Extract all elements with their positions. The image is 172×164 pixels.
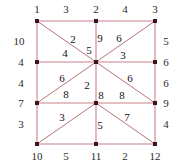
interior-label-9: 2 bbox=[84, 80, 90, 91]
interior-label-15: 7 bbox=[124, 112, 130, 123]
top-label-1: 1 bbox=[34, 4, 40, 15]
node-n5 bbox=[94, 60, 98, 64]
left-label-1: 10 bbox=[14, 36, 25, 47]
bottom-label-1: 10 bbox=[32, 151, 43, 162]
node-n6 bbox=[153, 60, 157, 64]
interior-label-10: 8 bbox=[63, 89, 69, 100]
interior-label-1: 2 bbox=[70, 34, 76, 45]
interior-label-4: 5 bbox=[86, 45, 92, 56]
right-label-1: 5 bbox=[163, 36, 169, 47]
node-n1 bbox=[35, 19, 39, 23]
interior-label-7: 6 bbox=[59, 73, 65, 84]
right-label-2: 6 bbox=[163, 57, 169, 68]
bottom-label-2: 5 bbox=[63, 151, 69, 162]
node-n7 bbox=[35, 101, 39, 105]
interior-label-3: 6 bbox=[116, 33, 122, 44]
interior-label-11: 8 bbox=[98, 90, 104, 101]
node-n3 bbox=[153, 19, 157, 23]
node-n10 bbox=[35, 142, 39, 146]
graph-diagram: 1 3 2 4 3 10 5 11 2 12 10 4 4 7 3 5 6 6 … bbox=[0, 0, 172, 164]
left-label-4: 7 bbox=[18, 98, 24, 109]
top-label-2: 3 bbox=[63, 4, 69, 15]
interior-label-14: 5 bbox=[97, 120, 103, 131]
node-n4 bbox=[35, 60, 39, 64]
left-label-2: 4 bbox=[18, 57, 24, 68]
interior-label-5: 4 bbox=[62, 48, 68, 59]
bottom-label-4: 2 bbox=[122, 151, 128, 162]
top-label-4: 4 bbox=[122, 4, 128, 15]
interior-label-8: 6 bbox=[127, 73, 133, 84]
left-label-3: 4 bbox=[18, 78, 24, 89]
bottom-label-5: 12 bbox=[150, 151, 161, 162]
node-n9 bbox=[153, 101, 157, 105]
bottom-label-3: 11 bbox=[91, 151, 102, 162]
node-n8 bbox=[94, 101, 98, 105]
top-label-3: 2 bbox=[93, 4, 99, 15]
edge-n8-n10-diagonal bbox=[37, 103, 96, 144]
edge-n8-n12-diagonal bbox=[96, 103, 155, 144]
interior-label-12: 8 bbox=[119, 90, 125, 101]
edge-group-straight bbox=[37, 21, 155, 144]
node-n2 bbox=[94, 19, 98, 23]
interior-label-6: 3 bbox=[120, 50, 126, 61]
right-label-4: 9 bbox=[163, 98, 169, 109]
right-label-3: 6 bbox=[163, 78, 169, 89]
top-label-5: 3 bbox=[152, 4, 158, 15]
node-n11 bbox=[94, 142, 98, 146]
node-n12 bbox=[153, 142, 157, 146]
right-label-5: 4 bbox=[163, 119, 169, 130]
interior-label-2: 9 bbox=[97, 33, 103, 44]
left-label-5: 3 bbox=[18, 119, 24, 130]
interior-label-13: 3 bbox=[59, 112, 65, 123]
edge-n5-n9-diagonal bbox=[96, 62, 155, 103]
